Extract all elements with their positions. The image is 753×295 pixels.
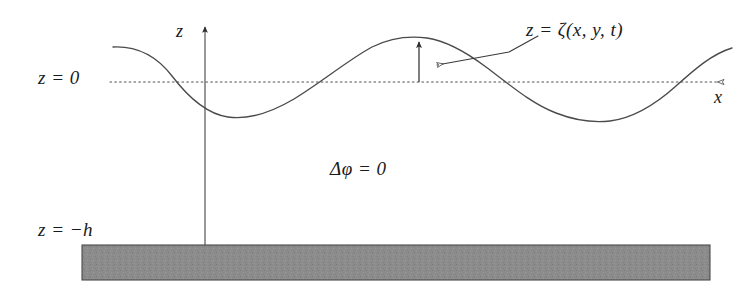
label-free-surface-equation: z = ζ(x, y, t) [526,20,623,39]
diagram-canvas [0,0,753,295]
label-z-equals-zero: z = 0 [38,68,80,87]
label-z-axis: z [176,22,183,40]
wave-diagram-figure: z = 0 z = −h z = ζ(x, y, t) Δφ = 0 z x [0,0,753,295]
label-z-equals-minus-h: z = −h [38,220,93,239]
free-surface-curve [113,37,732,121]
free-surface-callout-leader [437,36,538,65]
seabed [82,245,710,280]
wave-surface-path [113,37,732,121]
callout-leader-line [437,36,538,65]
seabed-rectangle [82,245,710,280]
label-x-axis: x [714,88,722,106]
label-laplace-equation: Δφ = 0 [330,159,386,178]
